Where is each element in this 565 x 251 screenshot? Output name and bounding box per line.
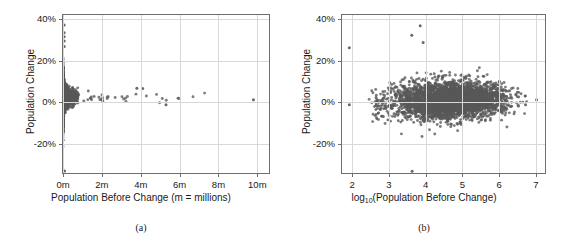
panel-b-y-tick-label: 0%	[321, 98, 335, 108]
panel-a-x-tick	[63, 173, 64, 177]
panel-b-x-tick-label: 4	[423, 180, 428, 190]
panel-b-x-tick-label: 5	[460, 180, 465, 190]
panel-b-y-tick	[338, 144, 342, 145]
panel-a-x-tick	[218, 173, 219, 177]
panel-a-y-tick-label: 40%	[37, 14, 56, 24]
panel-b-y-tick-label: 20%	[316, 56, 335, 66]
figure-scatter-pair: Population Change 40%20%0%-20%0m2m4m6m8m…	[0, 0, 565, 251]
panel-b-y-gridline	[342, 19, 545, 20]
panel-b-x-gridline	[462, 15, 463, 173]
panel-a-x-tick-label: 6m	[173, 180, 186, 190]
panel-a-plot-area: 40%20%0%-20%0m2m4m6m8m10m	[62, 14, 270, 174]
panel-a-y-tick-label: 20%	[37, 56, 56, 66]
panel-a-x-tick-label: 0m	[56, 180, 69, 190]
panel-a-x-tick	[180, 173, 181, 177]
panel-b-y-tick-label: 40%	[316, 14, 335, 24]
panel-b-x-gridline	[536, 15, 537, 173]
panel-a-y-gridline	[63, 102, 269, 103]
panel-b-x-gridline	[426, 15, 427, 173]
panel-a-y-gridline	[63, 19, 269, 20]
panel-b-plot-area: 40%20%0%-20%234567	[341, 14, 546, 174]
panel-b-y-tick	[338, 102, 342, 103]
panel-b-x-tick	[426, 173, 427, 177]
panel-b-x-tick-label: 6	[496, 180, 501, 190]
panel-a-x-gridline	[63, 15, 64, 173]
panel-a-x-axis-title: Population Before Change (m = millions)	[51, 192, 231, 203]
panel-a-x-tick-label: 8m	[212, 180, 225, 190]
panel-b-x-tick-label: 2	[350, 180, 355, 190]
panel-b-y-tick	[338, 19, 342, 20]
panel-a-x-gridline	[102, 15, 103, 173]
panel-b-x-tick-label: 7	[533, 180, 538, 190]
panel-b-caption: (b)	[418, 222, 430, 233]
panel-b-x-axis-title: log10(Population Before Change)	[351, 192, 496, 203]
panel-a-x-tick-label: 4m	[134, 180, 147, 190]
panel-b-y-gridline	[342, 61, 545, 62]
panel-b-x-tick	[462, 173, 463, 177]
panel-a-x-tick-label: 10m	[248, 180, 266, 190]
panel-b-y-tick-label: -20%	[313, 139, 335, 149]
panel-a-x-tick	[141, 173, 142, 177]
panel-b-y-gridline	[342, 102, 545, 103]
panel-a: Population Change 40%20%0%-20%0m2m4m6m8m…	[0, 0, 282, 251]
panel-b-scatter-points	[342, 15, 545, 173]
panel-b-x-tick	[389, 173, 390, 177]
panel-a-y-gridline	[63, 144, 269, 145]
panel-a-x-tick	[102, 173, 103, 177]
panel-b-x-axis-title-prefix: log	[351, 192, 364, 203]
panel-a-x-gridline	[218, 15, 219, 173]
panel-b-x-tick	[536, 173, 537, 177]
panel-a-y-tick-label: 0%	[42, 98, 56, 108]
panel-b-x-tick	[499, 173, 500, 177]
panel-b-x-gridline	[352, 15, 353, 173]
panel-b-y-tick	[338, 61, 342, 62]
panel-a-y-gridline	[63, 61, 269, 62]
panel-b: Population Change 40%20%0%-20%234567 log…	[283, 0, 565, 251]
panel-a-x-gridline	[257, 15, 258, 173]
panel-b-x-tick	[352, 173, 353, 177]
panel-b-x-axis-title-subscript: 10	[365, 197, 373, 204]
panel-b-x-tick-label: 3	[386, 180, 391, 190]
panel-b-x-gridline	[389, 15, 390, 173]
panel-a-x-tick	[257, 173, 258, 177]
panel-a-caption: (a)	[135, 222, 146, 233]
panel-b-y-gridline	[342, 144, 545, 145]
panel-a-x-tick-label: 2m	[95, 180, 108, 190]
panel-b-x-axis-title-suffix: (Population Before Change)	[373, 192, 497, 203]
panel-a-y-axis-title: Population Change	[25, 37, 36, 147]
panel-b-x-gridline	[499, 15, 500, 173]
panel-a-x-gridline	[141, 15, 142, 173]
panel-a-scatter-points	[63, 15, 269, 173]
panel-a-x-gridline	[180, 15, 181, 173]
panel-a-y-tick-label: -20%	[34, 139, 56, 149]
panel-b-y-axis-title: Population Change	[301, 37, 312, 147]
